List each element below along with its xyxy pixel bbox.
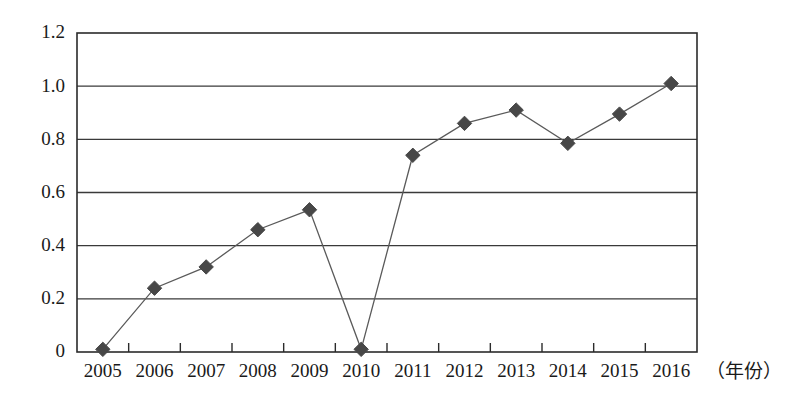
- y-axis-tick-label: 1.2: [41, 21, 65, 42]
- chart-figure: 00.20.40.60.81.01.2 20052006200720082009…: [0, 0, 802, 405]
- y-axis-tick-label: 0.4: [41, 234, 65, 255]
- x-axis-tick-label: 2015: [601, 360, 639, 381]
- x-axis-tick-label: 2009: [291, 360, 329, 381]
- x-axis-tick-label: 2008: [239, 360, 277, 381]
- x-axis-tick-label: 2006: [136, 360, 174, 381]
- x-axis-tick-label: 2013: [497, 360, 535, 381]
- x-axis-tick-label: 2011: [394, 360, 431, 381]
- x-axis-tick-label: 2014: [549, 360, 588, 381]
- x-axis-tick-label: 2016: [652, 360, 690, 381]
- x-axis-tick-label: 2012: [446, 360, 484, 381]
- chart-background: [0, 0, 802, 405]
- x-axis-caption: （年份）: [706, 361, 782, 382]
- y-axis-tick-label: 1.0: [41, 75, 65, 96]
- y-axis-tick-label: 0.6: [41, 181, 65, 202]
- x-axis-tick-label: 2010: [342, 360, 380, 381]
- line-chart: 00.20.40.60.81.01.2 20052006200720082009…: [0, 0, 802, 405]
- y-axis-tick-label: 0.8: [41, 128, 65, 149]
- y-axis-tick-label: 0.2: [41, 287, 65, 308]
- y-axis-tick-label: 0: [56, 340, 66, 361]
- x-axis-tick-label: 2007: [187, 360, 225, 381]
- x-axis-tick-label: 2005: [84, 360, 122, 381]
